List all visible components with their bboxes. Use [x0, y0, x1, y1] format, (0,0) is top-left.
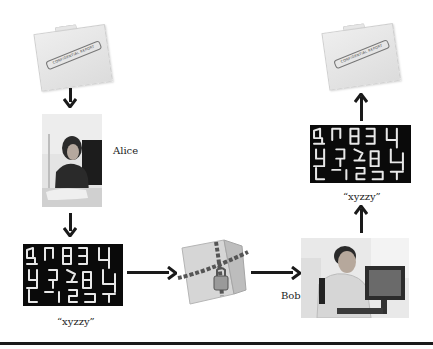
key-label-left: “xyzzy”: [57, 316, 95, 327]
alice-photo: [42, 114, 102, 207]
confidential-report-folder-icon: CONFIDENTIAL REPORT: [33, 24, 110, 89]
arrow-right-icon: [251, 266, 301, 280]
key-display-left: [23, 244, 123, 306]
chained-padlocked-folder-icon: [176, 236, 250, 306]
segment-glyphs: [310, 125, 411, 183]
alice-label: Alice: [113, 145, 138, 156]
key-label-right: “xyzzy”: [343, 191, 381, 202]
arrow-down-icon: [63, 213, 77, 239]
bob-photo: [301, 238, 409, 318]
arrow-right-icon: [127, 266, 177, 280]
arrow-up-icon: [354, 93, 368, 121]
arrow-up-icon: [354, 205, 368, 233]
bob-label: Bob: [281, 290, 301, 301]
confidential-report-folder-icon: CONFIDENTIAL REPORT: [321, 23, 398, 88]
segment-glyphs: [23, 244, 123, 306]
arrow-down-icon: [63, 88, 77, 110]
bottom-divider: [0, 342, 433, 345]
key-display-right: [310, 125, 411, 183]
